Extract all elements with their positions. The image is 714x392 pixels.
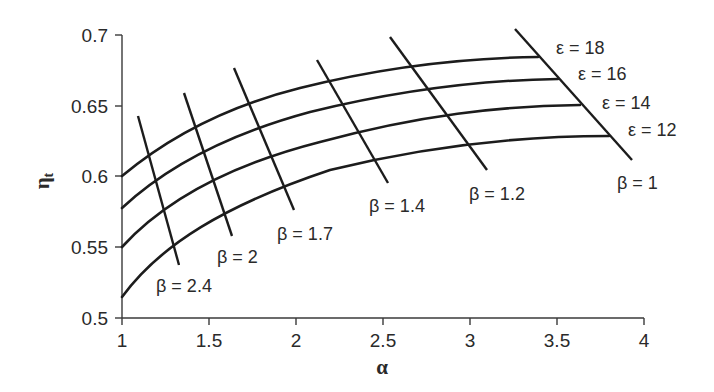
x-tick-label: 3 <box>465 330 476 351</box>
x-tick-label: 2 <box>291 330 302 351</box>
y-tick-label: 0.6 <box>82 166 108 187</box>
line-beta-1-2 <box>390 37 487 170</box>
label-beta-2-4: β = 2.4 <box>156 276 212 296</box>
x-tick-label: 3.5 <box>544 330 570 351</box>
x-tick-label: 2.5 <box>370 330 396 351</box>
y-tick-label: 0.7 <box>82 25 108 46</box>
y-axis-title: ηt <box>30 172 56 189</box>
y-tick-label: 0.65 <box>71 96 108 117</box>
x-axis: 1 1.5 2 2.5 3 3.5 4 <box>117 318 650 351</box>
label-epsilon-16: ε = 16 <box>578 64 627 84</box>
y-axis-title-main: η <box>30 177 54 189</box>
label-epsilon-14: ε = 14 <box>602 93 651 113</box>
curve-epsilon-14 <box>122 105 580 247</box>
y-tick-label: 0.55 <box>71 237 108 258</box>
x-axis-title: α <box>376 355 388 379</box>
x-tick-label: 1.5 <box>196 330 222 351</box>
y-axis: 0.7 0.65 0.6 0.55 0.5 <box>71 25 122 329</box>
curve-epsilon-12 <box>122 136 609 297</box>
chart: 0.7 0.65 0.6 0.55 0.5 1 1.5 2 2.5 3 3.5 … <box>0 0 714 392</box>
x-tick-label: 1 <box>117 330 128 351</box>
label-epsilon-12: ε = 12 <box>628 120 677 140</box>
label-beta-1-7: β = 1.7 <box>277 224 333 244</box>
curve-epsilon-18 <box>122 57 538 176</box>
y-tick-label: 0.5 <box>82 308 108 329</box>
label-beta-1: β = 1 <box>617 173 658 193</box>
label-beta-1-4: β = 1.4 <box>369 196 425 216</box>
label-epsilon-18: ε = 18 <box>556 38 605 58</box>
label-beta-1-2: β = 1.2 <box>469 184 525 204</box>
line-beta-1-7 <box>234 68 294 210</box>
x-tick-label: 4 <box>639 330 650 351</box>
svg-text:ηt: ηt <box>30 172 56 189</box>
label-beta-2: β = 2 <box>217 247 258 267</box>
y-axis-title-sub: t <box>41 172 56 177</box>
